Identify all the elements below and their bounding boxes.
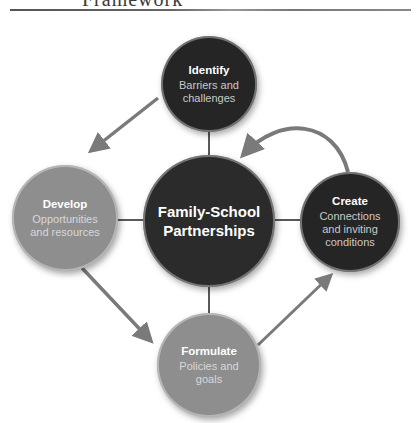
node-develop-desc-1: Opportunities <box>32 213 97 226</box>
node-develop-desc-2: and resources <box>30 226 100 239</box>
node-create-desc-3: conditions <box>325 236 375 249</box>
node-center: Family-School Partnerships <box>143 155 275 287</box>
arrow-create-to-center <box>244 128 348 172</box>
center-title-line-2: Partnerships <box>163 221 255 240</box>
node-create-desc-1: Connections <box>319 210 380 223</box>
node-formulate-desc-1: Policies and <box>179 360 238 373</box>
arrow-formulate-to-create <box>258 276 330 345</box>
node-create-title: Create <box>332 195 368 207</box>
center-title-line-1: Family-School <box>158 202 261 221</box>
node-formulate-desc-2: goals <box>196 373 222 386</box>
node-identify: Identify Barriers and challenges <box>161 36 257 132</box>
arrow-develop-to-formulate <box>82 268 150 340</box>
node-develop-title: Develop <box>43 198 88 210</box>
node-formulate: Formulate Policies and goals <box>157 313 261 417</box>
node-formulate-title: Formulate <box>181 345 237 357</box>
node-create: Create Connections and inviting conditio… <box>300 172 400 272</box>
node-identify-title: Identify <box>189 64 230 76</box>
arrow-identify-to-develop <box>92 98 158 150</box>
node-identify-desc-2: challenges <box>183 92 236 105</box>
node-identify-desc-1: Barriers and <box>179 79 239 92</box>
node-create-desc-2: and inviting <box>322 223 378 236</box>
node-develop: Develop Opportunities and resources <box>12 165 118 271</box>
